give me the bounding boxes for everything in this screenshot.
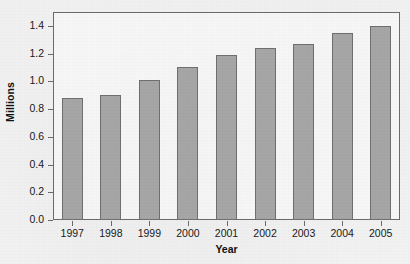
y-axis-tick-label: 0.8 <box>14 103 44 114</box>
x-axis-tick-mark <box>188 221 189 226</box>
y-axis-tick-mark <box>48 109 53 110</box>
y-axis-tick-mark <box>48 81 53 82</box>
bar-chart-figure: 0.00.20.40.60.81.01.21.4 Millions 199719… <box>0 0 410 264</box>
y-axis-tick-mark <box>48 26 53 27</box>
x-axis-tick-label: 2004 <box>322 228 362 239</box>
x-axis-tick-label: 2001 <box>207 228 247 239</box>
y-axis-tick-label: 0.6 <box>14 131 44 142</box>
x-axis-tick-mark <box>227 221 228 226</box>
y-axis-tick-mark <box>48 137 53 138</box>
x-axis-tick-mark <box>72 221 73 226</box>
y-axis-tick-mark <box>48 165 53 166</box>
y-axis-tick-label: 0.4 <box>14 159 44 170</box>
x-axis-tick-label: 1999 <box>129 228 169 239</box>
x-axis-tick-mark <box>111 221 112 226</box>
y-axis-tick-mark <box>48 192 53 193</box>
y-axis: 0.00.20.40.60.81.01.21.4 <box>0 0 410 264</box>
y-axis-tick-label: 1.2 <box>14 48 44 59</box>
x-axis-tick-mark <box>381 221 382 226</box>
x-axis-tick-mark <box>342 221 343 226</box>
y-axis-tick-label: 0.0 <box>14 214 44 225</box>
x-axis-tick-label: 2005 <box>361 228 401 239</box>
x-axis-tick-mark <box>304 221 305 226</box>
y-axis-tick-label: 0.2 <box>14 186 44 197</box>
y-axis-title: Millions <box>4 72 16 132</box>
x-axis-tick-label: 2002 <box>245 228 285 239</box>
y-axis-tick-mark <box>48 54 53 55</box>
x-axis-tick-label: 1998 <box>91 228 131 239</box>
x-axis-title: Year <box>53 243 400 255</box>
x-axis-tick-mark <box>149 221 150 226</box>
x-axis-tick-label: 1997 <box>52 228 92 239</box>
y-axis-tick-mark <box>48 220 53 221</box>
y-axis-tick-label: 1.0 <box>14 75 44 86</box>
x-axis-tick-label: 2003 <box>284 228 324 239</box>
y-axis-tick-label: 1.4 <box>14 20 44 31</box>
x-axis-tick-mark <box>265 221 266 226</box>
x-axis-tick-label: 2000 <box>168 228 208 239</box>
